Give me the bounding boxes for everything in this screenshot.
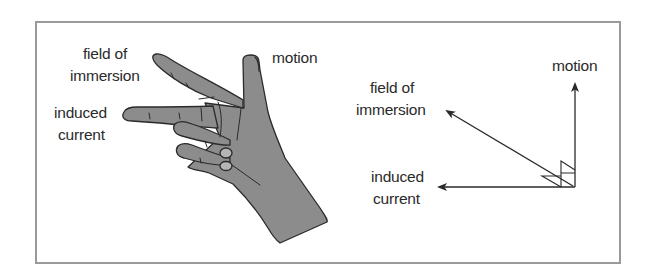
hand-illustration [123, 54, 327, 243]
little-fingernail [220, 162, 232, 171]
left-hand-rule-diagram: field of immersion induced current motio… [0, 0, 653, 274]
vector-label-motion: motion [552, 57, 597, 74]
index-finger [153, 54, 243, 108]
hand-label-field-line2: immersion [70, 67, 140, 84]
hand-label-current-line2: current [58, 126, 106, 143]
ring-fingernail [220, 148, 232, 158]
hand-label-field-line1: field of [83, 45, 128, 62]
vector-diagram [439, 84, 575, 187]
vector-label-field-line2: immersion [356, 101, 426, 118]
vector-label-current-line2: current [373, 190, 421, 207]
right-angle-markers [542, 161, 575, 187]
hand-label-current-line1: induced [54, 104, 107, 121]
vector-label-current-line1: induced [371, 168, 424, 185]
vector-label-field-line1: field of [370, 79, 415, 96]
field-arrow [447, 111, 573, 186]
hand-label-motion: motion [272, 49, 317, 66]
middle-finger [123, 106, 218, 128]
